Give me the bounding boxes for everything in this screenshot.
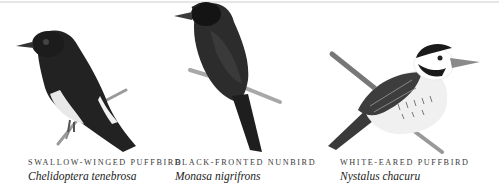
white-eared-puffbird-illustration	[322, 34, 497, 154]
swallow-winged-puffbird-illustration	[8, 24, 148, 154]
truncated-line	[175, 184, 316, 188]
bird-caption-3: White-eared Puffbird Nystalus chacuru	[340, 158, 470, 188]
bird-caption-1: Swallow-winged Puffbird Chelidoptera ten…	[28, 158, 182, 188]
common-name: Black-fronted Nunbird	[175, 158, 316, 167]
common-name: Swallow-winged Puffbird	[28, 158, 182, 167]
bird-caption-2: Black-fronted Nunbird Monasa nigrifrons	[175, 158, 316, 188]
scientific-name: Nystalus chacuru	[340, 170, 470, 182]
scientific-name: Monasa nigrifrons	[175, 170, 316, 182]
truncated-line	[340, 184, 470, 188]
truncated-line	[28, 184, 182, 188]
common-name: White-eared Puffbird	[340, 158, 470, 167]
scientific-name: Chelidoptera tenebrosa	[28, 170, 182, 182]
black-fronted-nunbird-illustration	[170, 0, 290, 160]
